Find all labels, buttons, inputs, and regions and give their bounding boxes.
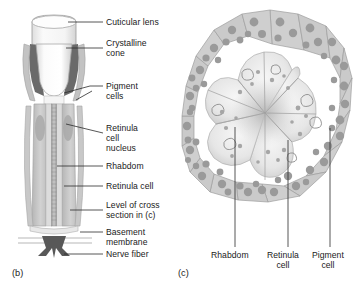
panel-c-cross-section: [182, 10, 352, 247]
panel-caption-c: (c): [178, 268, 189, 278]
ommatidium-figure: [0, 0, 364, 286]
retinula-cells: [205, 52, 321, 180]
label-retinula-cell-c: Retinula cell: [267, 250, 299, 270]
label-crystalline-cone: Crystalline cone: [106, 38, 147, 58]
panel-caption-b: (b): [12, 268, 23, 278]
label-retinula-cell-b: Retinula cell: [106, 181, 153, 191]
label-rhabdom-c: Rhabdom: [211, 250, 249, 260]
label-cuticular-lens: Cuticular lens: [106, 17, 159, 27]
label-pigment-cell-c: Pigment cell: [312, 250, 344, 270]
panel-b-longitudinal-section: [18, 15, 103, 258]
retinula-cell-shaft: [24, 96, 83, 226]
label-rhabdom-b: Rhabdom: [106, 161, 144, 171]
label-retinula-cell-nucleus: Retinula cell nucleus: [106, 123, 138, 154]
label-basement-membrane: Basement membrane: [106, 227, 147, 247]
nerve-fiber: [38, 236, 70, 258]
label-pigment-cells: Pigment cells: [106, 81, 138, 101]
label-level-of-cross-section: Level of cross section in (c): [106, 200, 160, 220]
label-nerve-fiber: Nerve fiber: [106, 249, 149, 259]
